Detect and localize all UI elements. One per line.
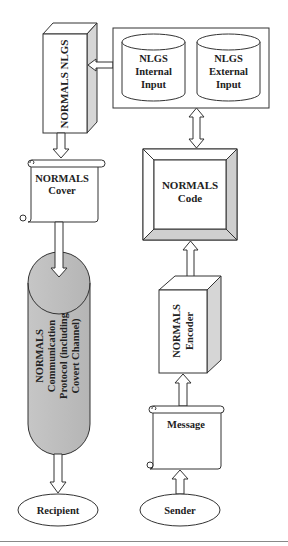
arrow-sender-to-message	[172, 470, 188, 494]
message-label: Message	[167, 419, 205, 430]
protocol-label-line-2: Communication	[46, 320, 57, 392]
cover-label-line-2: Cover	[48, 185, 76, 196]
arrow-cover-to-protocol	[51, 222, 67, 277]
protocol-capsule: NORMALS Communication Protocol (includin…	[28, 252, 90, 455]
internal-input-line-1: NLGS	[139, 53, 168, 64]
code-label-line-2: Code	[178, 192, 203, 204]
diagram-canvas: NORMALS NLGS NLGS Internal Input NLGS Ex…	[0, 0, 288, 546]
external-input-line-3: Input	[216, 79, 242, 90]
internal-input-line-2: Internal	[135, 66, 172, 77]
encoder-label-line-1: NORMALS	[171, 304, 182, 358]
encoder-box: NORMALS Encoder	[159, 276, 221, 373]
inputs-container: NLGS Internal Input NLGS External Input	[113, 28, 269, 108]
protocol-label-line-3: Protocol (including	[58, 312, 70, 399]
code-label-line-1: NORMALS	[162, 179, 218, 191]
protocol-label-line-4: Covert Channel)	[70, 318, 82, 393]
internal-input-line-3: Input	[141, 79, 167, 90]
cover-scroll: NORMALS Cover	[20, 160, 105, 222]
nlgs-box: NORMALS NLGS	[43, 23, 97, 133]
external-input-line-2: External	[209, 66, 248, 77]
external-input-line-1: NLGS	[214, 53, 243, 64]
message-scroll: Message	[147, 406, 224, 469]
cover-label-line-1: NORMALS	[35, 173, 89, 184]
recipient-node: Recipient	[18, 494, 98, 526]
sender-label: Sender	[164, 505, 196, 516]
double-arrow-inputs-code	[189, 108, 204, 148]
nlgs-label: NORMALS NLGS	[58, 40, 70, 129]
sender-node: Sender	[140, 494, 220, 526]
arrow-protocol-to-recipient	[50, 454, 66, 493]
protocol-label-line-1: NORMALS	[34, 329, 45, 383]
arrow-message-to-encoder	[175, 374, 191, 406]
external-input-cylinder: NLGS External Input	[197, 34, 260, 101]
code-box: NORMALS Code	[143, 149, 237, 240]
arrow-nlgs-to-cover	[53, 133, 69, 158]
internal-input-cylinder: NLGS Internal Input	[122, 34, 185, 101]
encoder-label-line-2: Encoder	[184, 312, 195, 350]
recipient-label: Recipient	[37, 505, 80, 516]
